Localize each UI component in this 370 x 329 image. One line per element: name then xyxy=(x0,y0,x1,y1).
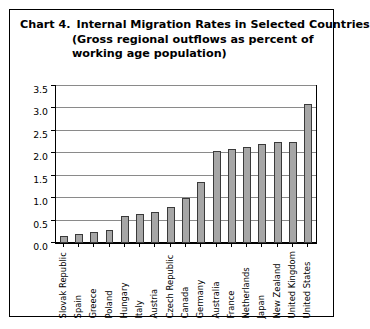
x-label-slot-4: Hungary xyxy=(116,244,131,318)
chart-title-block: Chart 4.Internal Migration Rates in Sele… xyxy=(10,18,335,62)
x-axis-label-australia: Australia xyxy=(211,281,219,318)
x-tick-mark-8 xyxy=(185,244,186,247)
y-tick-label-2: 1.0 xyxy=(33,196,48,198)
bar-netherlands xyxy=(243,147,251,243)
bar-united-states xyxy=(304,104,312,243)
x-label-slot-13: Japan xyxy=(254,244,269,318)
x-tick-mark-15 xyxy=(292,244,293,247)
bar-australia xyxy=(213,151,221,243)
bar-series xyxy=(56,86,316,243)
x-tick-mark-2 xyxy=(93,244,94,247)
y-tick-label-6: 3.0 xyxy=(33,106,48,108)
x-label-slot-11: France xyxy=(223,244,238,318)
y-tick-label-7: 3.5 xyxy=(33,84,48,86)
x-axis-label-united-kingdom: United Kingdom xyxy=(288,251,296,318)
x-tick-mark-3 xyxy=(109,244,110,247)
y-tick-label-0: 0.0 xyxy=(33,241,48,243)
x-tick-mark-7 xyxy=(170,244,171,247)
x-tick-mark-12 xyxy=(246,244,247,247)
bar-italy xyxy=(136,214,144,243)
x-axis-label-canada: Canada xyxy=(181,286,189,318)
x-axis-labels: Slovak RepublicSpainGreecePolandHungaryI… xyxy=(55,244,317,318)
x-axis-label-united-states: United States xyxy=(303,261,311,318)
y-axis: 0.00.51.01.52.02.53.03.5 xyxy=(10,85,55,244)
x-axis-label-france: France xyxy=(227,290,235,318)
bar-czech-republic xyxy=(167,207,175,243)
chart-title-main: Internal Migration Rates in Selected Cou… xyxy=(77,18,370,31)
x-tick-mark-9 xyxy=(200,244,201,247)
x-label-slot-10: Australia xyxy=(208,244,223,318)
x-label-slot-1: Spain xyxy=(70,244,85,318)
x-axis-label-greece: Greece xyxy=(89,288,97,318)
title-line-1: Chart 4.Internal Migration Rates in Sele… xyxy=(20,18,327,33)
y-tick-label-3: 1.5 xyxy=(33,174,48,176)
x-axis-label-austria: Austria xyxy=(150,288,158,318)
plot-area xyxy=(55,85,317,244)
x-tick-mark-16 xyxy=(307,244,308,247)
bar-austria xyxy=(151,212,159,243)
x-axis-label-italy: Italy xyxy=(135,300,143,318)
x-tick-mark-11 xyxy=(231,244,232,247)
x-label-slot-12: Netherlands xyxy=(239,244,254,318)
title-line-2: (Gross regional outflows as percent of xyxy=(20,33,327,48)
chart-figure: Chart 4.Internal Migration Rates in Sele… xyxy=(9,9,334,317)
y-tick-label-5: 2.5 xyxy=(33,129,48,131)
x-tick-mark-10 xyxy=(216,244,217,247)
x-axis-label-czech-republic: Czech Republic xyxy=(165,254,173,318)
x-axis-label-germany: Germany xyxy=(196,280,204,319)
x-axis-label-hungary: Hungary xyxy=(120,282,128,318)
bar-france xyxy=(228,149,236,243)
x-axis-label-japan: Japan xyxy=(257,295,265,318)
bar-hungary xyxy=(121,216,129,243)
x-axis-label-new-zealand: New Zealand xyxy=(273,263,281,318)
bar-canada xyxy=(182,198,190,243)
x-label-slot-8: Canada xyxy=(177,244,192,318)
x-axis-label-slovak-republic: Slovak Republic xyxy=(58,252,66,318)
bar-poland xyxy=(106,230,114,243)
bar-new-zealand xyxy=(274,142,282,243)
x-axis-label-poland: Poland xyxy=(104,290,112,318)
x-axis-label-netherlands: Netherlands xyxy=(242,267,250,318)
bar-germany xyxy=(197,182,205,243)
bar-greece xyxy=(90,232,98,243)
x-tick-mark-5 xyxy=(139,244,140,247)
x-axis-label-spain: Spain xyxy=(74,295,82,318)
bar-spain xyxy=(75,234,83,243)
x-label-slot-2: Greece xyxy=(86,244,101,318)
chart-number-label: Chart 4. xyxy=(20,18,71,31)
bar-japan xyxy=(258,144,266,243)
x-label-slot-5: Italy xyxy=(131,244,146,318)
x-tick-mark-4 xyxy=(124,244,125,247)
x-label-slot-9: Germany xyxy=(193,244,208,318)
title-line-3: working age population) xyxy=(20,47,327,62)
x-tick-mark-1 xyxy=(78,244,79,247)
x-label-slot-16: United States xyxy=(300,244,315,318)
x-tick-mark-14 xyxy=(277,244,278,247)
x-tick-mark-0 xyxy=(63,244,64,247)
x-label-slot-3: Poland xyxy=(101,244,116,318)
x-label-slot-15: United Kingdom xyxy=(284,244,299,318)
x-label-slot-6: Austria xyxy=(147,244,162,318)
x-label-slot-0: Slovak Republic xyxy=(55,244,70,318)
y-tick-label-1: 0.5 xyxy=(33,219,48,221)
bar-united-kingdom xyxy=(289,142,297,243)
x-label-slot-14: New Zealand xyxy=(269,244,284,318)
bar-slovak-republic xyxy=(60,236,68,243)
x-tick-mark-13 xyxy=(261,244,262,247)
x-label-slot-7: Czech Republic xyxy=(162,244,177,318)
y-tick-label-4: 2.0 xyxy=(33,151,48,153)
x-tick-mark-6 xyxy=(154,244,155,247)
